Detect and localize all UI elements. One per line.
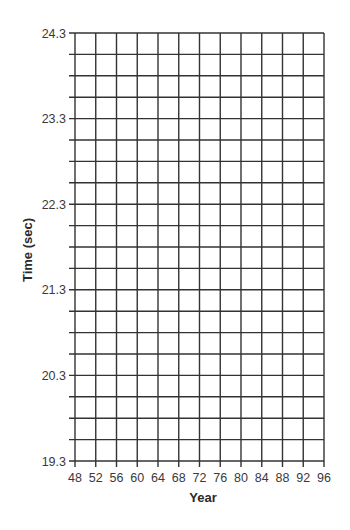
x-axis-title: Year [189, 490, 216, 505]
y-tick-label: 24.3 [42, 27, 66, 41]
y-axis-title: Time (sec) [20, 218, 35, 282]
x-tick-label: 68 [172, 471, 186, 485]
vertical-grid-lines [75, 33, 324, 467]
x-tick-label: 96 [317, 471, 331, 485]
x-axis-tick-labels: 48525660646872768084889296 [68, 471, 331, 485]
chart: 48525660646872768084889296 19.320.321.32… [0, 0, 350, 530]
x-tick-label: 64 [151, 471, 165, 485]
x-tick-label: 52 [89, 471, 103, 485]
x-tick-label: 60 [130, 471, 144, 485]
y-tick-label: 20.3 [42, 369, 66, 383]
x-tick-label: 84 [255, 471, 269, 485]
x-tick-label: 56 [110, 471, 124, 485]
x-tick-label: 92 [296, 471, 310, 485]
x-tick-label: 80 [234, 471, 248, 485]
y-tick-label: 19.3 [42, 455, 66, 469]
x-tick-label: 88 [276, 471, 290, 485]
x-tick-label: 48 [68, 471, 82, 485]
x-tick-label: 72 [193, 471, 207, 485]
horizontal-grid-lines [69, 33, 324, 461]
y-tick-label: 22.3 [42, 198, 66, 212]
y-tick-label: 21.3 [42, 283, 66, 297]
x-tick-label: 76 [213, 471, 227, 485]
y-axis-tick-labels: 19.320.321.322.323.324.3 [42, 27, 66, 469]
y-tick-label: 23.3 [42, 112, 66, 126]
